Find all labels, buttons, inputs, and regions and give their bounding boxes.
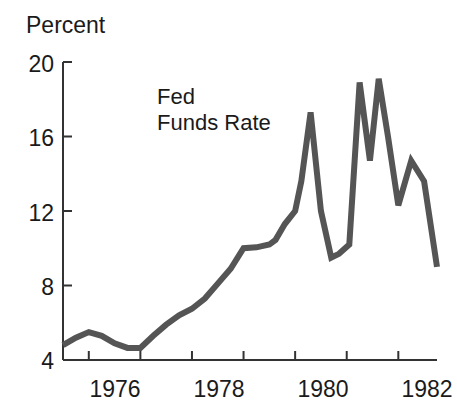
y-axis-ticks	[63, 62, 72, 286]
x-axis-ticks	[89, 351, 399, 360]
series-line-fed-funds-rate	[63, 79, 437, 348]
